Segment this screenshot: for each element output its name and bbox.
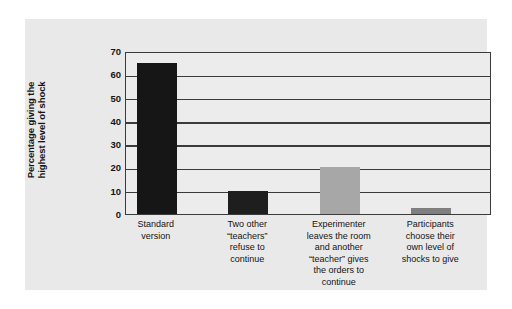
y-axis-title-text: Percentage giving the highest level of s… bbox=[25, 81, 48, 178]
y-axis-tick-label: 20 bbox=[99, 163, 121, 173]
y-axis-tick-label: 60 bbox=[99, 70, 121, 80]
plot-area bbox=[125, 52, 491, 215]
y-axis-tick-label: 10 bbox=[99, 187, 121, 197]
y-axis-tick-label: 50 bbox=[99, 94, 121, 104]
bar bbox=[411, 208, 451, 214]
x-axis-category-label: Participants choose their own level of s… bbox=[385, 219, 475, 265]
bar bbox=[320, 167, 360, 214]
x-axis-category-label: Standard version bbox=[116, 219, 196, 242]
y-axis-tick-label: 40 bbox=[99, 117, 121, 127]
x-axis-category-labels: Standard versionTwo other “teachers” ref… bbox=[125, 219, 491, 299]
y-axis-title: Percentage giving the highest level of s… bbox=[11, 55, 61, 205]
y-axis-tick-labels: 010203040506070 bbox=[99, 33, 121, 210]
chart-panel: Percentage giving the highest level of s… bbox=[25, 19, 487, 290]
bar bbox=[137, 63, 177, 214]
y-axis-tick-label: 30 bbox=[99, 140, 121, 150]
x-axis-category-label: Experimenter leaves the room and another… bbox=[286, 219, 391, 288]
x-axis-category-label: Two other “teachers” refuse to continue bbox=[207, 219, 287, 265]
bar-series bbox=[126, 53, 490, 214]
chart-figure: Percentage giving the highest level of s… bbox=[0, 0, 512, 309]
y-axis-tick-label: 70 bbox=[99, 47, 121, 57]
bar bbox=[228, 191, 268, 214]
